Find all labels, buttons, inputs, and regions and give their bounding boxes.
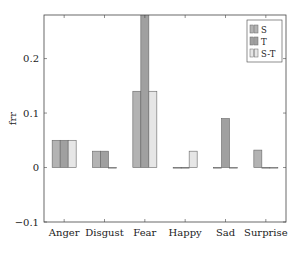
bar-t-disgust: [101, 151, 109, 167]
bar-t-fear: [141, 0, 149, 168]
bar-t-surprise: [262, 168, 270, 169]
bar-s-t-happy: [189, 151, 197, 167]
y-tick-label: 0: [33, 162, 39, 173]
x-tick-label: Sad: [216, 227, 236, 238]
x-tick-label: Disgust: [85, 227, 123, 238]
bar-s-sad: [214, 168, 222, 169]
bar-chart: AngerDisgustFearHappySadSurprise−0.100.1…: [0, 0, 300, 255]
bar-s-t-fear: [149, 91, 157, 167]
x-tick-label: Surprise: [244, 227, 288, 238]
y-axis-label: frr: [7, 112, 18, 125]
chart-container: AngerDisgustFearHappySadSurprise−0.100.1…: [0, 0, 300, 255]
x-tick-label: Anger: [48, 227, 80, 238]
legend-swatch-s-t: [250, 49, 254, 57]
bar-s-t-anger: [68, 140, 76, 167]
bar-t-sad: [222, 119, 230, 168]
bar-s-t-surprise: [270, 168, 278, 169]
bars-group: [52, 0, 278, 168]
bar-s-fear: [133, 91, 141, 167]
y-tick-label: −0.1: [15, 217, 39, 228]
bar-s-anger: [52, 140, 60, 167]
bar-t-happy: [181, 168, 189, 169]
legend-label-s: S: [261, 25, 267, 35]
legend-swatch-t: [255, 37, 259, 45]
y-tick-label: 0.2: [23, 53, 39, 64]
legend-label-t: T: [261, 37, 267, 47]
bar-s-t-sad: [230, 168, 238, 169]
legend-swatch-t: [250, 37, 254, 45]
bar-s-surprise: [254, 150, 262, 167]
y-tick-label: 0.1: [23, 108, 39, 119]
legend-swatch-s: [255, 25, 259, 33]
legend-swatch-s-t: [255, 49, 259, 57]
x-tick-label: Fear: [133, 227, 156, 238]
bar-s-t-disgust: [109, 168, 117, 169]
bar-t-anger: [60, 140, 68, 167]
bar-s-disgust: [93, 151, 101, 167]
legend-label-s-t: S-T: [261, 49, 276, 59]
legend-swatch-s: [250, 25, 254, 33]
bar-s-happy: [173, 168, 181, 169]
x-tick-label: Happy: [169, 227, 202, 238]
